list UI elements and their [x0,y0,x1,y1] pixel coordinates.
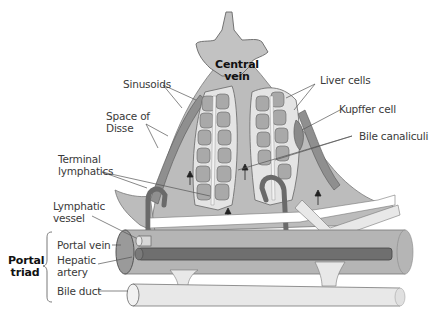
label-central-vein: Central vein [212,59,262,83]
portal-triad-line2: triad [8,267,42,279]
label-hepatic-artery: Hepatic artery [57,254,96,278]
terminal-lymphatics-line1: Terminal [58,153,113,165]
lymphatic-vessel-line2: vessel [53,212,105,224]
bile-branch-left [170,270,198,286]
portal-triad-brace [43,232,52,302]
label-sinusoids: Sinusoids [123,78,171,90]
space-of-disse-line1: Space of [106,110,150,122]
label-bile-duct: Bile duct [57,285,101,297]
label-space-of-disse: Space of Disse [106,110,150,134]
label-kupffer-cell: Kupffer cell [339,103,396,115]
lymphatic-vessel [136,236,151,246]
hepatic-artery-line1: Hepatic [57,254,96,266]
label-portal-vein: Portal vein [57,239,111,251]
label-portal-triad: Portal triad [8,255,42,279]
space-of-disse-line2: Disse [106,122,150,134]
central-vein-line2: vein [212,71,262,83]
label-bile-canaliculi: Bile canaliculi [359,130,428,142]
label-terminal-lymphatics: Terminal lymphatics [58,153,113,177]
label-lymphatic-vessel: Lymphatic vessel [53,200,105,224]
hepatic-artery-line2: artery [57,266,96,278]
label-liver-cells: Liver cells [320,74,370,86]
lymphatic-vessel-line1: Lymphatic [53,200,105,212]
bile-duct [127,284,405,306]
hepatic-artery [135,248,392,260]
terminal-lymphatics-line2: lymphatics [58,165,113,177]
